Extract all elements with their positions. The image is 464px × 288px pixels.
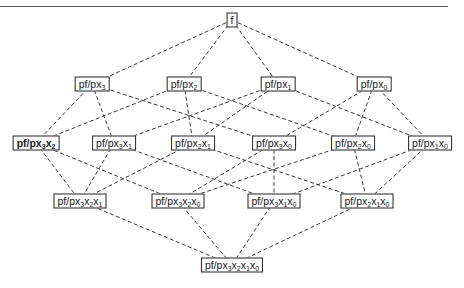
subscript-index: 0 <box>386 201 390 208</box>
node-label: pf/px <box>412 137 435 149</box>
node-px2x0: pf/px2x0 <box>331 136 375 151</box>
subscript-index: 0 <box>444 143 448 150</box>
node-label: pf/px <box>79 78 102 90</box>
node-label: pf/px <box>252 195 275 207</box>
node-px1: pf/px1 <box>261 77 296 92</box>
edge-px0-px2x0 <box>353 84 374 143</box>
subscript-index: 1 <box>128 143 132 150</box>
subscript-index: 0 <box>293 201 297 208</box>
subscript-index: 0 <box>367 143 371 150</box>
node-label: pf/px <box>345 195 368 207</box>
edge-px2x1x0-px3x2x1x0 <box>232 201 367 265</box>
node-label: pf/px <box>171 78 194 90</box>
node-px3x1x0: pf/px3x1x0 <box>248 194 301 209</box>
edge-f-px2 <box>184 20 232 84</box>
edge-px3-px3x0 <box>92 84 274 143</box>
node-label: pf/px <box>96 137 119 149</box>
edge-px2x0-px2x1x0 <box>353 143 367 201</box>
node-px3: pf/px3 <box>75 77 110 92</box>
edge-px2x1-px2x1x0 <box>193 143 367 201</box>
node-label: pf/px <box>335 137 358 149</box>
edge-px3x2x0-px3x2x1x0 <box>178 201 232 265</box>
edge-px1-px1x0 <box>278 84 430 143</box>
node-label: pf/px <box>58 195 81 207</box>
edge-px3-px3x2 <box>36 84 92 143</box>
edge-px1-px2x1 <box>193 84 278 143</box>
node-px2x1: pf/px2x1 <box>171 136 215 151</box>
node-label: f <box>231 14 234 26</box>
node-label: pf/px <box>175 137 198 149</box>
subscript-index: 2 <box>51 143 55 150</box>
edge-f-px1 <box>232 20 278 84</box>
edge-px3x2-px3x2x1 <box>36 143 80 201</box>
node-px0: pf/px0 <box>357 77 392 92</box>
edge-px3x2x1-px3x2x1x0 <box>80 201 232 265</box>
subscript-index: 3 <box>101 84 105 91</box>
node-px3x2x1x0: pf/px3x2x1x0 <box>201 258 263 273</box>
diagram-edges <box>0 0 464 288</box>
edge-px1x0-px2x1x0 <box>367 143 430 201</box>
node-px3x1: pf/px3x1 <box>92 136 136 151</box>
subscript-index: 1 <box>207 143 211 150</box>
edge-px0-px1x0 <box>374 84 430 143</box>
subscript-index: 0 <box>197 201 201 208</box>
node-label: pf/px <box>156 195 179 207</box>
subscript-index: 1 <box>99 201 103 208</box>
edge-px1x0-px3x1x0 <box>274 143 430 201</box>
node-label: pf/px <box>17 137 42 149</box>
node-px3x2x1: pf/px3x2x1 <box>54 194 107 209</box>
subscript-index: 1 <box>287 84 291 91</box>
subscript-index: 0 <box>288 143 292 150</box>
edge-px2x0-px3x2x0 <box>178 143 353 201</box>
edge-px3x0-px3x2x0 <box>178 143 274 201</box>
node-px2: pf/px2 <box>167 77 202 92</box>
node-px3x2: pf/px3x2 <box>13 136 60 151</box>
node-label: pf/px <box>205 259 228 271</box>
edge-px1-px3x1 <box>114 84 278 143</box>
node-label: pf/px <box>361 78 384 90</box>
edge-px2-px2x0 <box>184 84 353 143</box>
edge-f-px3 <box>92 20 232 84</box>
node-label: pf/px <box>265 78 288 90</box>
subscript-index: 0 <box>255 265 259 272</box>
edge-px2-px3x2 <box>36 84 184 143</box>
node-px2x1x0: pf/px2x1x0 <box>341 194 394 209</box>
subscript-index: 0 <box>383 84 387 91</box>
edge-px3x2-px3x2x0 <box>36 143 178 201</box>
edge-px2-px2x1 <box>184 84 193 143</box>
edge-px0-px3x0 <box>274 84 374 143</box>
edge-px3x1-px3x1x0 <box>114 143 274 201</box>
node-label: pf/px <box>256 137 279 149</box>
node-px3x0: pf/px3x0 <box>252 136 296 151</box>
node-px3x2x0: pf/px3x2x0 <box>152 194 205 209</box>
edge-f-px0 <box>232 20 374 84</box>
subscript-index: 2 <box>193 84 197 91</box>
node-px1x0: pf/px1x0 <box>408 136 452 151</box>
node-f: f <box>227 13 238 28</box>
